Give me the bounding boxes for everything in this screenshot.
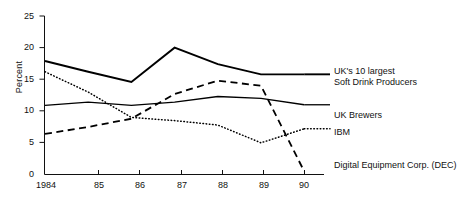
series-line-0 [45, 48, 304, 82]
x-axis-ticks [99, 170, 305, 175]
series-layer [45, 48, 330, 172]
legend-label-uk-brewers: UK Brewers [334, 110, 382, 121]
legend-line-1: UK Brewers [334, 110, 382, 121]
legend-line-1: IBM [334, 127, 350, 138]
y-axis-ticks [40, 16, 45, 142]
legend-label-dec: Digital Equipment Corp. (DEC) [334, 160, 457, 171]
legend-line-1: UK's 10 largest [334, 66, 417, 77]
axes [40, 16, 325, 175]
legend-line-2: Soft Drink Producers [334, 77, 417, 88]
legend-label-ibm: IBM [334, 127, 350, 138]
legend-line-1: Digital Equipment Corp. (DEC) [334, 160, 457, 171]
series-line-1 [45, 97, 304, 106]
legend-label-soft-drink-producers: UK's 10 largest Soft Drink Producers [334, 66, 417, 88]
series-line-3 [45, 81, 304, 172]
series-line-2 [45, 72, 304, 143]
